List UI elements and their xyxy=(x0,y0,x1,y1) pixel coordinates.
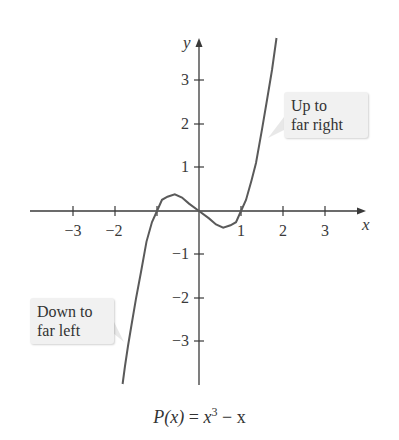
y-tick-label: −2 xyxy=(172,289,189,306)
y-tick-label: 2 xyxy=(181,115,189,132)
y-axis-label: y xyxy=(181,33,191,52)
cubic-function-graph: −3 −2 1 2 3 3 2 1 −1 −2 −3 x y xyxy=(0,0,399,440)
callout-line: Up to xyxy=(291,96,361,115)
caption-equals: = xyxy=(184,407,203,427)
caption-lhs: P(x) xyxy=(153,407,184,427)
x-tick-label: −2 xyxy=(105,222,122,239)
callout-line: Down to xyxy=(37,302,107,321)
function-caption: P(x) = x3 − x xyxy=(0,405,399,428)
callout-pointer-left xyxy=(113,320,124,342)
y-tick-label: −1 xyxy=(172,245,189,262)
x-tick-label: 2 xyxy=(279,222,287,239)
x-tick-label: 1 xyxy=(237,222,245,239)
y-tick-label: 1 xyxy=(181,158,189,175)
callout-line: far right xyxy=(291,115,361,134)
x-axis-arrow-icon xyxy=(357,208,366,215)
y-tick-label: −3 xyxy=(172,332,189,349)
callout-up-to-far-right: Up to far right xyxy=(284,92,368,138)
caption-rest: − x xyxy=(217,407,245,427)
y-axis-arrow-icon xyxy=(196,38,203,47)
callout-line: far left xyxy=(37,321,107,340)
callout-down-to-far-left: Down to far left xyxy=(30,298,114,344)
callout-pointer-right xyxy=(268,117,284,138)
x-axis-label: x xyxy=(361,215,370,234)
x-tick-label: 3 xyxy=(321,222,329,239)
y-tick-label: 3 xyxy=(181,71,189,88)
x-tick-label: −3 xyxy=(64,222,81,239)
